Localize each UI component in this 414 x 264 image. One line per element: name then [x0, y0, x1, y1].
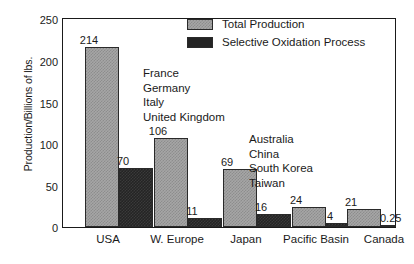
- y-tick-label-200: 200: [0, 57, 58, 68]
- value-label-weurope-selective: 11: [171, 206, 213, 217]
- annotation-w-europe-line-4: United Kingdom: [143, 110, 225, 125]
- selective-oxidation-swatch: [187, 37, 213, 48]
- legend: Total Production Selective Oxidation Pro…: [187, 16, 365, 52]
- y-tick-label-100: 100: [0, 140, 58, 151]
- y-tick-label-250: 250: [0, 15, 58, 26]
- bar-usa-selective: [119, 168, 153, 227]
- y-tick-label-0: 0: [0, 223, 58, 234]
- legend-label-total-production: Total Production: [222, 18, 304, 30]
- value-label-pacific-selective: 4: [309, 211, 351, 222]
- x-axis-label-usa: USA: [68, 233, 148, 245]
- bar-japan-selective: [257, 214, 291, 227]
- x-axis-label-canada: Canada: [344, 233, 414, 245]
- value-label-weurope-total: 106: [137, 126, 179, 137]
- bar-chart: Production/Billions of lbs. 250 200 150 …: [0, 0, 414, 264]
- value-label-usa-selective: 70: [102, 156, 144, 167]
- y-tick-label-150: 150: [0, 99, 58, 110]
- annotation-pacific-basin-countries: Australia China South Korea Taiwan: [249, 132, 313, 190]
- annotation-w-europe-line-1: France: [143, 66, 225, 81]
- annotation-pacific-line-1: Australia: [249, 132, 313, 147]
- bar-canada-total: [347, 209, 381, 227]
- value-label-canada-total: 21: [330, 197, 372, 208]
- legend-item-selective-oxidation: Selective Oxidation Process: [187, 34, 365, 50]
- annotation-w-europe-line-2: Germany: [143, 81, 225, 96]
- value-label-pacific-total: 24: [275, 195, 317, 206]
- legend-label-selective-oxidation: Selective Oxidation Process: [222, 36, 365, 48]
- value-label-japan-total: 69: [206, 157, 248, 168]
- x-axis-label-w-europe: W. Europe: [137, 233, 217, 245]
- annotation-w-europe-countries: France Germany Italy United Kingdom: [143, 66, 225, 124]
- value-label-canada-selective: 0.25: [380, 213, 414, 224]
- annotation-w-europe-line-3: Italy: [143, 95, 225, 110]
- annotation-pacific-line-2: China: [249, 147, 313, 162]
- legend-item-total-production: Total Production: [187, 16, 365, 32]
- annotation-pacific-line-4: Taiwan: [249, 176, 313, 191]
- value-label-usa-total: 214: [68, 35, 110, 46]
- bar-usa-total: [85, 47, 119, 227]
- bar-weurope-selective: [188, 218, 222, 227]
- y-tick-label-50: 50: [0, 182, 58, 193]
- annotation-pacific-line-3: South Korea: [249, 161, 313, 176]
- bar-canada-selective: [381, 225, 396, 227]
- total-production-swatch: [187, 19, 213, 30]
